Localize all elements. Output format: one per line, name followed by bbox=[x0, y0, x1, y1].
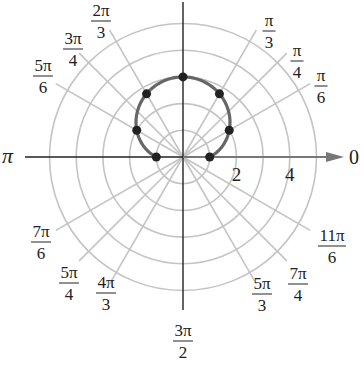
polar-axis-arrow-icon bbox=[326, 152, 344, 162]
label-denominator: 4 bbox=[65, 285, 74, 304]
angle-label: 3π2 bbox=[173, 321, 193, 362]
label-numerator: 7π bbox=[289, 264, 307, 283]
label-denominator: 4 bbox=[69, 51, 78, 70]
label-denominator: 3 bbox=[97, 23, 106, 42]
label-denominator: 3 bbox=[102, 295, 111, 314]
label-numerator: π bbox=[265, 11, 274, 30]
angle-labels: π6π4π32π33π45π67π65π44π33π25π37π411π60π2… bbox=[2, 1, 359, 362]
angle-label: π4 bbox=[291, 41, 304, 82]
label-numerator: π bbox=[317, 66, 326, 85]
data-point bbox=[152, 153, 161, 162]
label-denominator: 4 bbox=[293, 63, 302, 82]
label-numerator: 5π bbox=[60, 263, 78, 282]
label-numerator: 3π bbox=[64, 29, 82, 48]
label-denominator: 3 bbox=[265, 33, 274, 52]
label-denominator: 2 bbox=[179, 343, 188, 362]
label-denominator: 6 bbox=[328, 248, 337, 267]
radial-tick-label: 2 bbox=[232, 164, 242, 185]
data-point bbox=[205, 153, 214, 162]
grid-ray bbox=[56, 157, 183, 230]
grid-ray bbox=[183, 53, 287, 157]
angle-label: 7π6 bbox=[31, 222, 51, 263]
polar-graph: π6π4π32π33π45π67π65π44π33π25π37π411π60π2… bbox=[0, 0, 364, 365]
axis-label-zero: 0 bbox=[349, 146, 359, 168]
label-denominator: 6 bbox=[39, 78, 48, 97]
angle-label: 5π4 bbox=[59, 263, 79, 304]
angle-label: 11π6 bbox=[318, 226, 346, 267]
grid-ray bbox=[183, 157, 256, 284]
grid-ray bbox=[79, 53, 183, 157]
angle-label: 3π4 bbox=[63, 29, 83, 70]
data-point bbox=[179, 72, 188, 81]
angle-label: 5π6 bbox=[33, 56, 53, 97]
label-denominator: 6 bbox=[317, 88, 326, 107]
label-numerator: 2π bbox=[92, 1, 110, 20]
label-denominator: 4 bbox=[294, 286, 303, 305]
angle-label: π6 bbox=[315, 66, 328, 107]
data-point bbox=[132, 126, 141, 135]
label-numerator: 4π bbox=[97, 273, 115, 292]
label-numerator: 3π bbox=[174, 321, 192, 340]
angle-label: π3 bbox=[263, 11, 276, 52]
data-point bbox=[142, 89, 151, 98]
label-numerator: π bbox=[293, 41, 302, 60]
label-numerator: 5π bbox=[253, 274, 271, 293]
angle-label: 5π3 bbox=[252, 274, 272, 315]
label-numerator: 7π bbox=[32, 222, 50, 241]
axis-label-pi: π bbox=[2, 143, 14, 168]
angle-label: 7π4 bbox=[288, 264, 308, 305]
radial-tick-label: 4 bbox=[285, 164, 295, 185]
data-point bbox=[225, 126, 234, 135]
grid-ray bbox=[183, 84, 310, 157]
grid-ray bbox=[56, 84, 183, 157]
grid-ray bbox=[110, 157, 183, 284]
label-numerator: 11π bbox=[320, 226, 345, 245]
angle-label: 4π3 bbox=[96, 273, 116, 314]
grid-ray bbox=[79, 157, 183, 261]
label-denominator: 3 bbox=[258, 296, 267, 315]
label-denominator: 6 bbox=[37, 244, 46, 263]
angle-label: 2π3 bbox=[91, 1, 111, 42]
label-numerator: 5π bbox=[34, 56, 52, 75]
data-point bbox=[215, 89, 224, 98]
